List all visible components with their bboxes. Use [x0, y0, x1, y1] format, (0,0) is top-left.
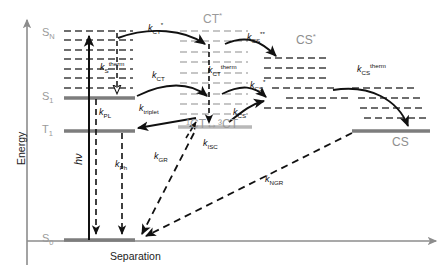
- rate-label-k-cs-therm: kCStherm: [357, 63, 386, 76]
- rate-label-k-pl: kPL: [99, 108, 111, 119]
- arrow-k-gr: [142, 133, 194, 234]
- state-label-s1: S1: [42, 91, 54, 105]
- species-label-cs-excited: CS*: [296, 33, 316, 46]
- species-label-cs-ground: CS: [392, 136, 409, 148]
- rate-label-k-ct-therm: kCTtherm: [208, 64, 237, 77]
- y-axis-label: Energy: [16, 132, 27, 165]
- state-label-s0: S0: [42, 233, 54, 247]
- state-label-t1: T1: [42, 124, 53, 138]
- state-label-sn: SN: [42, 27, 55, 41]
- photon-label-hv: hν: [73, 153, 84, 165]
- rate-label-k-cs: kCS: [233, 108, 246, 119]
- rate-label-k-ph: kPh: [115, 160, 127, 171]
- rate-label-k-triplet: ktriplet: [139, 104, 159, 115]
- rate-label-k-ct: kCT: [152, 71, 165, 82]
- diagram-canvas: [0, 0, 442, 269]
- rate-label-k-ct-star: kCT*: [148, 22, 163, 35]
- rate-label-k-gr: kGR: [154, 152, 168, 163]
- x-axis-label: Separation: [110, 251, 161, 262]
- arrow-k-ngr: [146, 133, 352, 236]
- arrow-k-cs-therm: [333, 89, 408, 126]
- manifold-cs-excited: [264, 58, 352, 108]
- rate-label-k-cs-dstar: kCS**: [247, 31, 265, 44]
- species-label-ct-equilibrium: ¹CT↔³CT: [186, 118, 238, 130]
- species-label-ct-excited: CT*: [203, 12, 222, 25]
- rate-label-k-cs-star: kCS*: [250, 79, 266, 92]
- rate-label-k-isc: kISC: [203, 139, 218, 150]
- rate-label-k-ngr: kNGR: [265, 175, 283, 186]
- energy-level-diagram: Energy Separation SN S1 T1 S0 CT* ¹CT↔³C…: [0, 0, 442, 269]
- rate-label-k-s-therm: kStherm: [100, 61, 124, 74]
